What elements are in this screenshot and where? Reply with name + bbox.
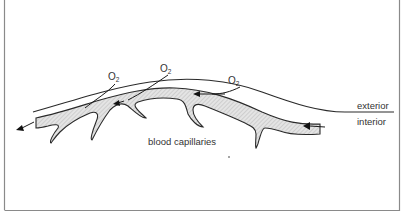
arrowhead-icon [16, 125, 24, 131]
exterior-label: exterior [357, 100, 389, 111]
oxygen-label-3: O2 [228, 75, 240, 87]
capillaries-label: blood capillaries [148, 136, 216, 147]
oxygen-label-1: O2 [108, 71, 120, 83]
diffusion-diagram: O2 O2 O2 exterior interior blood capilla… [0, 0, 402, 214]
interior-label: interior [357, 116, 386, 127]
oxygen-label-2: O2 [160, 63, 172, 75]
stray-mark [228, 156, 230, 158]
